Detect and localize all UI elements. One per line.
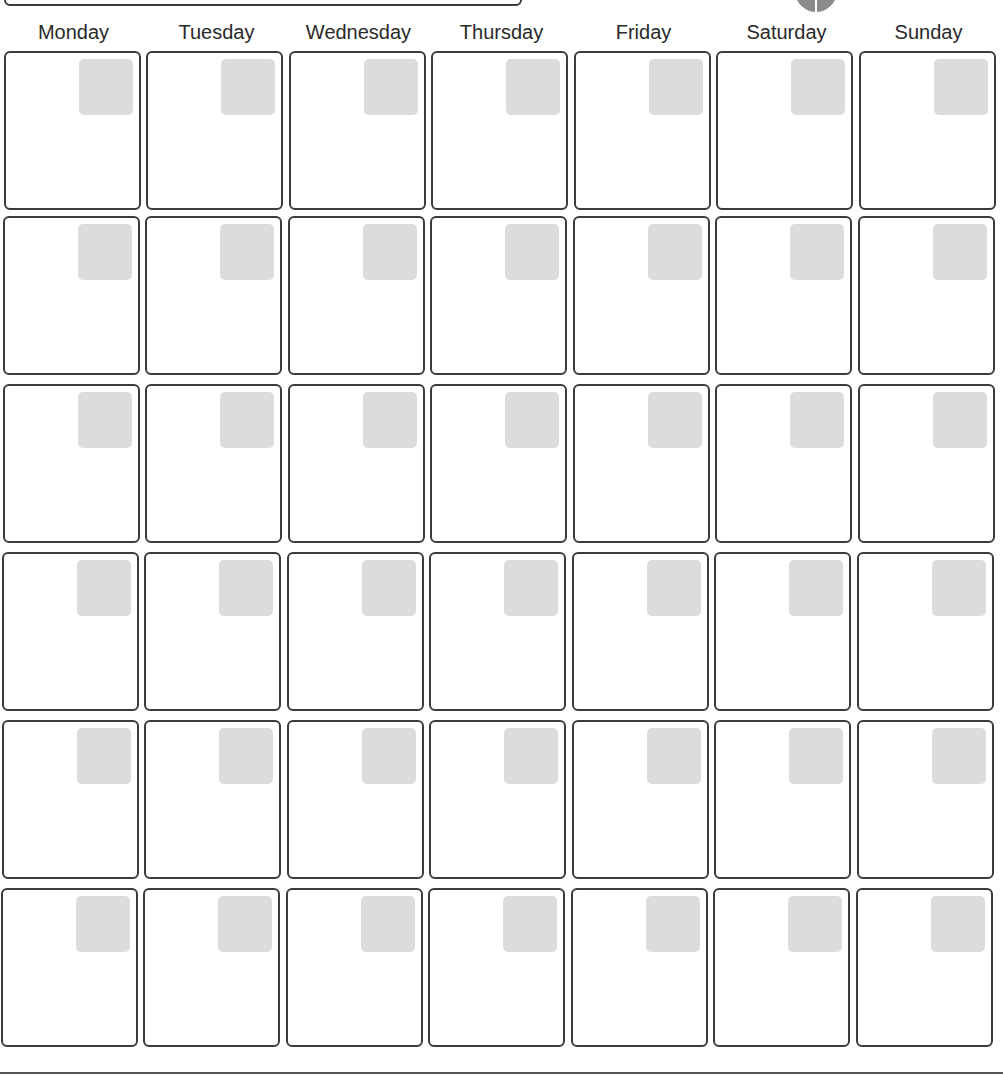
calendar-day-cell[interactable]	[145, 384, 282, 543]
date-number-badge	[77, 560, 131, 616]
calendar-day-cell[interactable]	[288, 216, 425, 375]
calendar-day-cell[interactable]	[429, 720, 566, 879]
date-number-badge	[791, 59, 845, 115]
date-number-badge	[219, 560, 273, 616]
date-number-badge	[931, 896, 985, 952]
calendar-day-cell[interactable]	[431, 51, 568, 210]
calendar-day-cell[interactable]	[573, 384, 710, 543]
date-number-badge	[933, 392, 987, 448]
calendar-day-cell[interactable]	[430, 216, 567, 375]
calendar-day-cell[interactable]	[715, 384, 852, 543]
calendar-day-cell[interactable]	[714, 720, 851, 879]
calendar-day-cell[interactable]	[2, 552, 139, 711]
date-number-badge	[363, 392, 417, 448]
calendar-day-cell[interactable]	[428, 888, 565, 1047]
calendar-day-cell[interactable]	[857, 720, 994, 879]
calendar-day-cell[interactable]	[289, 51, 426, 210]
date-number-badge	[788, 896, 842, 952]
date-number-badge	[505, 224, 559, 280]
date-number-badge	[503, 896, 557, 952]
date-number-badge	[646, 896, 700, 952]
date-number-badge	[648, 392, 702, 448]
date-number-badge	[933, 224, 987, 280]
date-number-badge	[362, 728, 416, 784]
calendar-day-cell[interactable]	[574, 51, 711, 210]
calendar-day-cell[interactable]	[1, 888, 138, 1047]
calendar-day-cell[interactable]	[287, 552, 424, 711]
date-number-badge	[932, 728, 986, 784]
date-number-badge	[647, 560, 701, 616]
calendar-day-cell[interactable]	[144, 720, 281, 879]
date-number-badge	[932, 560, 986, 616]
date-number-badge	[647, 728, 701, 784]
date-number-badge	[790, 392, 844, 448]
calendar-day-cell[interactable]	[573, 216, 710, 375]
calendar-grid	[0, 0, 1003, 1075]
calendar-day-cell[interactable]	[145, 216, 282, 375]
calendar-day-cell[interactable]	[429, 552, 566, 711]
date-number-badge	[79, 59, 133, 115]
date-number-badge	[76, 896, 130, 952]
calendar-day-cell[interactable]	[858, 384, 995, 543]
date-number-badge	[77, 728, 131, 784]
date-number-badge	[361, 896, 415, 952]
calendar-day-cell[interactable]	[857, 552, 994, 711]
calendar-day-cell[interactable]	[713, 888, 850, 1047]
date-number-badge	[649, 59, 703, 115]
calendar-day-cell[interactable]	[143, 888, 280, 1047]
date-number-badge	[506, 59, 560, 115]
calendar-day-cell[interactable]	[856, 888, 993, 1047]
date-number-badge	[364, 59, 418, 115]
date-number-badge	[789, 728, 843, 784]
date-number-badge	[220, 392, 274, 448]
calendar-day-cell[interactable]	[286, 888, 423, 1047]
date-number-badge	[218, 896, 272, 952]
calendar-day-cell[interactable]	[572, 552, 709, 711]
date-number-badge	[504, 560, 558, 616]
date-number-badge	[219, 728, 273, 784]
calendar-day-cell[interactable]	[571, 888, 708, 1047]
calendar-day-cell[interactable]	[287, 720, 424, 879]
date-number-badge	[78, 392, 132, 448]
calendar-day-cell[interactable]	[714, 552, 851, 711]
date-number-badge	[789, 560, 843, 616]
date-number-badge	[220, 224, 274, 280]
date-number-badge	[221, 59, 275, 115]
calendar-day-cell[interactable]	[288, 384, 425, 543]
calendar-day-cell[interactable]	[146, 51, 283, 210]
date-number-badge	[934, 59, 988, 115]
date-number-badge	[505, 392, 559, 448]
date-number-badge	[78, 224, 132, 280]
calendar-day-cell[interactable]	[716, 51, 853, 210]
calendar-day-cell[interactable]	[430, 384, 567, 543]
date-number-badge	[648, 224, 702, 280]
calendar-day-cell[interactable]	[715, 216, 852, 375]
date-number-badge	[504, 728, 558, 784]
date-number-badge	[363, 224, 417, 280]
date-number-badge	[362, 560, 416, 616]
calendar-day-cell[interactable]	[2, 720, 139, 879]
calendar-day-cell[interactable]	[859, 51, 996, 210]
calendar-day-cell[interactable]	[4, 51, 141, 210]
calendar-day-cell[interactable]	[144, 552, 281, 711]
bottom-divider	[0, 1072, 1003, 1074]
calendar-day-cell[interactable]	[3, 216, 140, 375]
date-number-badge	[790, 224, 844, 280]
calendar-day-cell[interactable]	[3, 384, 140, 543]
calendar-day-cell[interactable]	[572, 720, 709, 879]
calendar-day-cell[interactable]	[858, 216, 995, 375]
